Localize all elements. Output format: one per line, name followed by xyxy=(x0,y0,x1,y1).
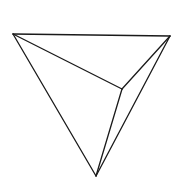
edge-BD xyxy=(96,36,170,176)
tetrahedron-diagram xyxy=(0,0,189,190)
edge-AB xyxy=(13,34,170,36)
edge-CD xyxy=(96,89,122,176)
